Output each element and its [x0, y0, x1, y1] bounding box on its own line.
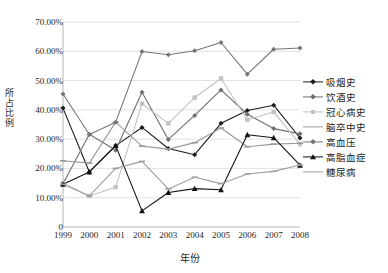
x-axis-tick-label: 2008	[285, 230, 315, 240]
legend-item-label: 糖尿病	[326, 165, 356, 179]
line-chart: 所占比例 010.00%20.00%30.00%40.00%50.00%60.0…	[0, 0, 388, 273]
legend-item-7[interactable]: 糖尿病	[303, 164, 388, 179]
legend-item-label: 冠心病史	[326, 105, 366, 119]
legend-marker-icon	[303, 136, 323, 148]
legend-item-2[interactable]: 饮酒史	[303, 89, 388, 104]
legend-item-label: 高脂血症	[326, 150, 366, 164]
legend-marker-icon	[303, 166, 323, 178]
legend-item-label: 脑卒中史	[326, 120, 366, 134]
legend-marker-icon	[303, 151, 323, 163]
legend-item-5[interactable]: 高血压	[303, 134, 388, 149]
legend-item-label: 饮酒史	[326, 90, 356, 104]
legend-item-label: 高血压	[326, 135, 356, 149]
legend-marker-icon	[303, 76, 323, 88]
legend-item-3[interactable]: 冠心病史	[303, 104, 388, 119]
legend-marker-icon	[303, 91, 323, 103]
legend-marker-icon	[303, 121, 323, 133]
legend-item-4[interactable]: 脑卒中史	[303, 119, 388, 134]
x-axis-title: 年份	[140, 250, 240, 265]
legend-marker-icon	[303, 106, 323, 118]
chart-legend: 吸烟史饮酒史冠心病史脑卒中史高血压高脂血症糖尿病	[303, 74, 388, 179]
legend-item-6[interactable]: 高脂血症	[303, 149, 388, 164]
legend-item-1[interactable]: 吸烟史	[303, 74, 388, 89]
legend-item-label: 吸烟史	[326, 75, 356, 89]
